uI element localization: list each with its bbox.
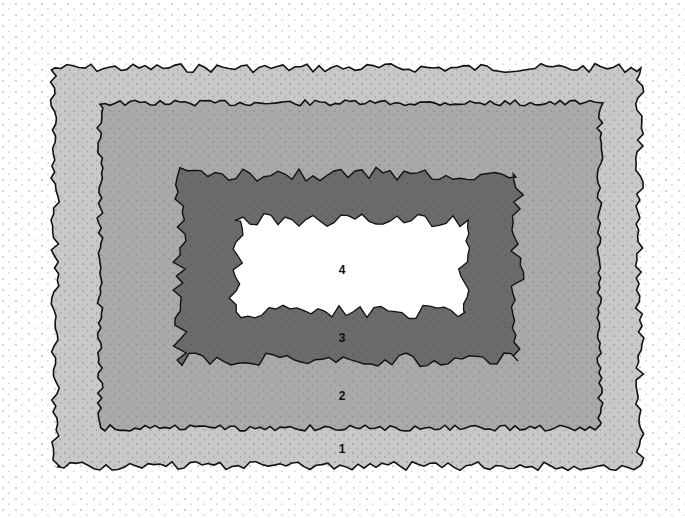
zone-4-area — [229, 214, 469, 319]
nested-zones-diagram: 1 2 3 4 — [0, 0, 685, 518]
diagram-canvas — [0, 0, 685, 518]
zone-2-label: 2 — [339, 389, 346, 403]
zone-1-label: 1 — [339, 442, 346, 456]
zone-4-label: 4 — [339, 263, 346, 277]
zone-3-label: 3 — [339, 331, 346, 345]
